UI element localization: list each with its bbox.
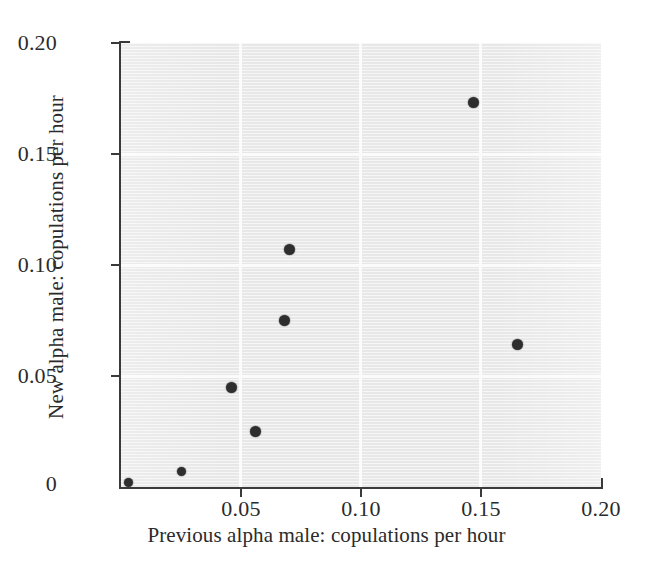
scatter-plot-figure: 0.20 0.15 0.10 0.05 0 0.05 0.10 0.15 0.2… [0,0,653,561]
y-tick-005 [111,375,120,377]
data-point [124,478,133,487]
x-tick-label-015: 0.15 [461,497,500,521]
gridline-horizontal-005 [121,375,601,378]
plot-area [121,43,601,487]
x-tick-label-005: 0.05 [221,497,260,521]
data-point [279,315,290,326]
data-point [512,339,523,350]
data-point [226,382,237,393]
data-point [468,97,479,108]
x-tick-label-010: 0.10 [341,497,380,521]
data-point [177,467,186,476]
axis-corner-top-left [119,41,130,43]
gridline-horizontal-015 [121,153,601,156]
axis-corner-bottom-right [601,478,603,489]
data-point [284,244,295,255]
gridline-horizontal-010 [121,264,601,267]
y-tick-020 [111,42,120,44]
y-axis-title: New alpha male: copulations per hour [44,17,68,497]
y-tick-010 [111,264,120,266]
x-tick-label-020: 0.20 [581,497,620,521]
y-tick-015 [111,153,120,155]
x-axis-title: Previous alpha male: copulations per hou… [0,523,653,547]
data-point [250,426,261,437]
